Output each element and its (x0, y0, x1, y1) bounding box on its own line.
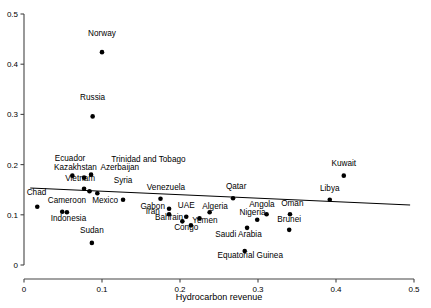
data-point-label: Cameroon (48, 196, 87, 205)
data-point (342, 173, 347, 178)
data-point (231, 196, 236, 201)
data-point-label: Chad (27, 188, 47, 197)
scatter-plot-figure: 00.10.20.30.40.5 00.10.20.30.40.5 Norway… (0, 0, 431, 308)
data-point (35, 204, 40, 209)
data-point-label: Azerbaijan (100, 163, 139, 172)
x-tick-label: 0.5 (408, 285, 420, 294)
data-point (327, 197, 332, 202)
data-point-label: Oman (281, 199, 304, 208)
data-point (90, 241, 95, 246)
data-point (167, 206, 172, 211)
data-point-label: Mexico (92, 196, 118, 205)
data-point (158, 196, 163, 201)
data-point-label: Saudi Arabia (215, 230, 262, 239)
data-point-label: Bahrain (155, 213, 184, 222)
data-point-labels-layer: NorwayRussiaEcuadorKazakhstanTrinidad an… (27, 29, 357, 260)
data-point (121, 197, 126, 202)
data-point (255, 218, 260, 223)
y-tick-label: 0.3 (7, 110, 19, 119)
data-point-label: Indonesia (51, 214, 87, 223)
x-tick-label: 0.4 (330, 285, 342, 294)
x-tick-label: 0.1 (96, 285, 108, 294)
data-point-label: Libya (320, 184, 340, 193)
y-axis: 00.10.20.30.40.5 (7, 10, 24, 270)
data-point-label: Kazakhstan (54, 163, 97, 172)
data-point (287, 228, 292, 233)
data-point-label: UAE (178, 201, 195, 210)
y-tick-label: 0.2 (7, 161, 19, 170)
y-tick-label: 0 (14, 261, 19, 270)
data-point-label: Kuwait (332, 159, 357, 168)
data-point-label: Equatorial Guinea (217, 251, 283, 260)
data-point (184, 215, 189, 220)
data-point-label: Sudan (80, 226, 104, 235)
data-point-label: Brunei (277, 215, 301, 224)
data-point-label: Congo (174, 223, 199, 232)
x-axis-title: Hydrocarbon revenue (176, 292, 263, 302)
x-tick-label: 0 (22, 285, 27, 294)
data-point-label: Venezuela (147, 183, 186, 192)
data-point (90, 114, 95, 119)
data-point-label: Syria (114, 176, 133, 185)
data-point-label: Norway (88, 29, 117, 38)
data-point (100, 50, 105, 55)
data-point-label: Angola (249, 200, 275, 209)
y-tick-label: 0.5 (7, 10, 19, 19)
data-point-label: Qatar (226, 182, 247, 191)
chart-canvas: 00.10.20.30.40.5 00.10.20.30.40.5 Norway… (0, 0, 431, 308)
y-tick-label: 0.4 (7, 60, 19, 69)
data-point (87, 189, 92, 194)
data-point (82, 186, 87, 191)
data-point-label: Vietnam (65, 174, 95, 183)
data-point-label: Russia (80, 93, 105, 102)
y-tick-label: 0.1 (7, 211, 19, 220)
data-point-label: Algeria (202, 202, 228, 211)
